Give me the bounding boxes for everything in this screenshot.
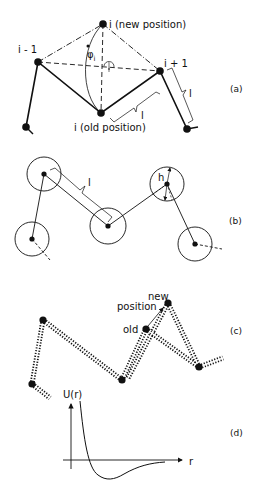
label-old: old [123,324,138,335]
node-i-minus-1 [34,58,42,66]
node [183,125,191,133]
label-position: position [117,301,157,312]
bead-center [41,171,46,176]
panel-a: i (new position) i - 1 i + 1 i (old posi… [18,19,243,134]
label-old-position: i (old position) [74,122,146,133]
label-height: h [158,172,164,183]
spring-bonds [32,303,223,398]
panel-tag-c: (c) [230,326,242,336]
angle-marker [87,45,90,48]
node-i-plus-1 [156,67,164,75]
x-axis-label: r [189,456,194,467]
node-new-position [99,20,107,28]
label-bond-length: l [141,110,144,121]
label-i-minus-1: i - 1 [18,44,37,55]
label-angle: φi [87,49,96,63]
node-old [142,325,149,332]
node [22,123,30,131]
label-bond-length: l [189,88,192,99]
bead-center [105,223,110,228]
panel-tag-b: (b) [229,216,242,226]
node [118,376,125,383]
label-new-position: i (new position) [109,19,186,30]
rotation-axis [38,62,160,71]
panel-tag-d: (d) [230,428,243,438]
figure: i (new position) i - 1 i + 1 i (old posi… [0,0,262,490]
node-old-position [97,109,105,117]
dashdot-line [103,24,160,71]
bead-center [192,241,197,246]
bond [108,184,167,226]
y-axis-label: U(r) [63,389,82,400]
bead-center [29,236,34,241]
node [28,380,35,387]
rotation-arc [85,24,103,113]
bead-center [164,181,169,186]
node [39,316,46,323]
panel-b: l h (b) [15,157,242,261]
panel-d: U(r) r (d) [63,389,243,479]
panel-c: new position old (c) [28,291,242,398]
dashed-line [101,24,103,113]
bond-length-bracket [50,168,112,222]
bond-length-bracket [110,92,160,122]
label-bond-length: l [88,177,91,188]
label-i-plus-1: i + 1 [164,58,188,69]
bond [32,174,44,239]
bond [44,174,108,226]
potential-curve [80,401,165,479]
node [195,363,202,370]
panel-tag-a: (a) [230,84,243,94]
